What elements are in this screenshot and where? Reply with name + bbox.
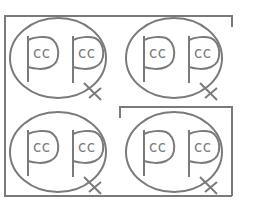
glyph-p: cc (28, 36, 58, 82)
glyph-inner-text: cc (33, 44, 51, 62)
glyph-inner-text: cc (149, 138, 167, 156)
glyph-inner-text: cc (194, 44, 212, 62)
glyph-p-tail: cc (189, 36, 219, 100)
glyph-p-tail: cc (189, 130, 219, 194)
cell-bottom-left: cc cc (10, 112, 106, 194)
glyph-inner-text: cc (78, 138, 96, 156)
cell-top-right: cc cc (126, 18, 222, 100)
glyph-inner-text: cc (149, 44, 167, 62)
figure-canvas: cc cc cc cc cc (0, 0, 253, 206)
glyph-p: cc (144, 36, 174, 82)
cell-bottom-right: cc cc (126, 112, 222, 194)
glyph-p-tail: cc (73, 36, 103, 100)
glyph-p: cc (144, 130, 174, 176)
glyph-inner-text: cc (78, 44, 96, 62)
glyph-inner-text: cc (194, 138, 212, 156)
glyph-p: cc (28, 130, 58, 176)
glyph-p-tail: cc (73, 130, 103, 194)
cell-top-left: cc cc (10, 18, 106, 100)
glyph-inner-text: cc (33, 138, 51, 156)
